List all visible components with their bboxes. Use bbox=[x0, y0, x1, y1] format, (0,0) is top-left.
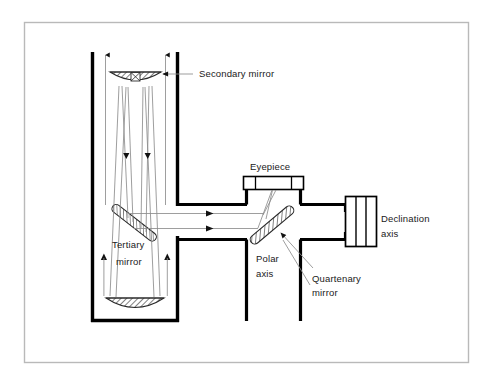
label-declination-axis-line2: axis bbox=[381, 228, 399, 239]
secondary-mirror bbox=[110, 72, 161, 81]
label-polar-axis-line1: Polar bbox=[256, 253, 279, 264]
primary-mirror bbox=[106, 298, 164, 308]
label-eyepiece: Eyepiece bbox=[250, 161, 290, 172]
secondary-to-tertiary-rays bbox=[122, 86, 149, 232]
tube-ray-arrowheads bbox=[123, 153, 151, 159]
telescope-optical-path-figure: Secondary mirror Tertiary mirror Eyepiec… bbox=[0, 0, 493, 384]
quartenary-mirror bbox=[248, 204, 295, 246]
label-polar-axis-line2: axis bbox=[256, 268, 274, 279]
label-tertiary-mirror-line1: Tertiary bbox=[112, 239, 144, 250]
leader-polar-axis bbox=[283, 240, 310, 285]
label-tertiary-mirror-line2: mirror bbox=[116, 256, 142, 267]
declination-axis-block bbox=[346, 197, 377, 247]
eyepiece bbox=[244, 177, 304, 190]
label-quartenary-mirror-line2: mirror bbox=[312, 287, 338, 298]
telescope-diagram: Secondary mirror Tertiary mirror Eyepiec… bbox=[0, 0, 493, 384]
label-secondary-mirror: Secondary mirror bbox=[199, 68, 274, 79]
tertiary-to-quartenary-rays bbox=[128, 214, 264, 229]
label-declination-axis-line1: Declination bbox=[381, 213, 430, 224]
label-quartenary-mirror-line1: Quartenary bbox=[312, 273, 361, 284]
horizontal-ray-arrowheads bbox=[206, 211, 214, 232]
